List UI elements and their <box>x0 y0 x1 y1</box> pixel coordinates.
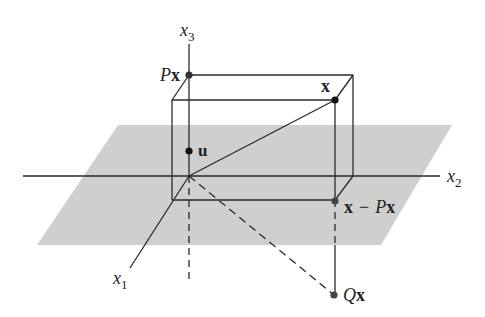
point-x-minus-Px <box>331 197 338 204</box>
subspace-plane <box>37 125 452 245</box>
label-u: u <box>198 141 207 160</box>
x1-label: x1 <box>112 268 128 292</box>
label-x: x <box>321 76 330 96</box>
x3-label: x3 <box>179 20 195 44</box>
projection-diagram: x3 x2 x1 Px x u x−Px Qx <box>0 0 485 317</box>
x2-label: x2 <box>446 166 462 190</box>
box-edge <box>335 75 353 100</box>
label-Qx: Qx <box>343 285 365 305</box>
point-u <box>185 147 192 154</box>
point-Qx <box>330 291 337 298</box>
label-Px: Px <box>159 65 180 85</box>
point-x <box>331 96 338 103</box>
point-Px <box>185 71 192 78</box>
